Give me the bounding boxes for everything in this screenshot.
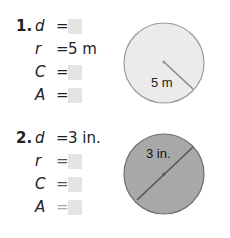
circle-figure-2: 3 in. [124, 134, 204, 214]
circle-figures: 5 m 3 in. [0, 0, 230, 238]
circle-figure-1: 5 m [124, 23, 204, 103]
diameter-label: 3 in. [146, 146, 171, 161]
radius-label: 5 m [151, 75, 173, 90]
center-point [162, 172, 165, 175]
center-point [162, 60, 165, 63]
